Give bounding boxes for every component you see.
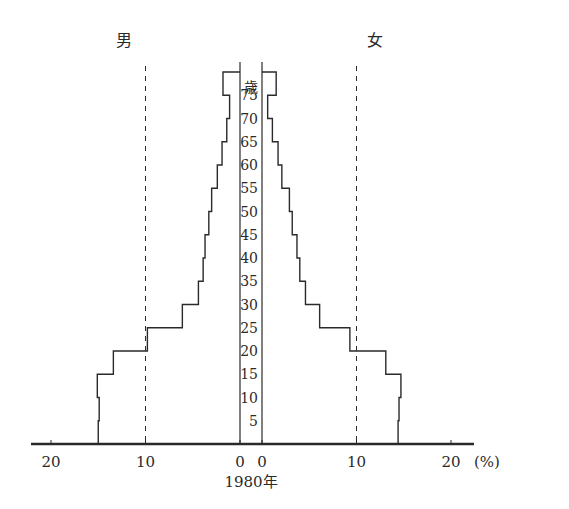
male-label: 男	[116, 31, 132, 50]
percent-unit-label: (%)	[474, 453, 500, 471]
x-tick-label-male: 20	[41, 453, 60, 471]
x-tick-label-male: 0	[235, 453, 245, 471]
population-pyramid-chart: 男 女 歳 51015202530354045505560657075 2010…	[0, 0, 569, 509]
age-tick-label: 65	[240, 134, 258, 150]
age-tick-label: 70	[240, 111, 258, 127]
age-tick-label: 75	[240, 87, 258, 103]
female-bars	[262, 72, 401, 444]
age-tick-labels: 51015202530354045505560657075	[240, 87, 258, 429]
x-tick-label-female: 10	[347, 453, 366, 471]
age-tick-label: 30	[240, 297, 258, 313]
x-tick-label-female: 0	[257, 453, 267, 471]
age-tick-label: 10	[240, 390, 258, 406]
age-tick-label: 15	[240, 366, 258, 382]
age-tick-label: 25	[240, 320, 258, 336]
x-tick-label-female: 20	[441, 453, 460, 471]
age-tick-label: 20	[240, 343, 258, 359]
age-tick-label: 35	[240, 273, 258, 289]
female-label: 女	[367, 31, 383, 50]
age-tick-label: 40	[240, 250, 258, 266]
male-bars	[97, 72, 240, 444]
age-tick-label: 55	[240, 180, 258, 196]
age-tick-label: 60	[240, 157, 258, 173]
age-tick-label: 45	[240, 227, 258, 243]
x-tick-label-male: 10	[136, 453, 155, 471]
age-tick-label: 50	[240, 204, 258, 220]
chart-title-year: 1980年	[224, 473, 277, 491]
age-tick-label: 5	[249, 413, 258, 429]
